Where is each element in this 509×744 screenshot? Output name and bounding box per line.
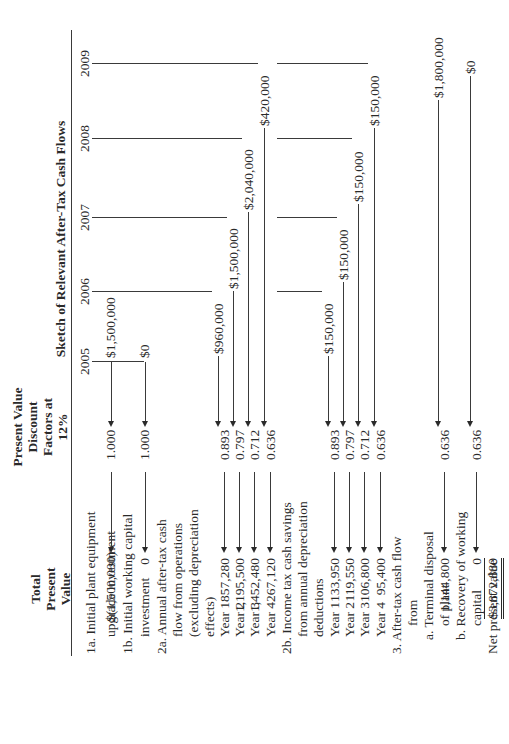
total-pv-value: 1,452,480 — [248, 558, 262, 644]
discount-factor: 0.712 — [248, 430, 262, 460]
header-rule — [71, 364, 72, 656]
row-label: 2a. Annual after-tax cash — [155, 519, 169, 654]
connector-2008-tax — [277, 138, 352, 139]
discount-factor: 0.712 — [358, 430, 372, 460]
arrow-left-icon — [145, 362, 146, 422]
cash-flow-amount: $1,800,000 — [432, 37, 446, 98]
cash-flow-amount: $150,000 — [368, 75, 382, 126]
total-pv-value: 133,950 — [328, 558, 342, 644]
header-line: Present — [43, 554, 58, 624]
cash-flow-amount: $1,500,000 — [104, 295, 118, 360]
arrow-left-icon — [270, 472, 271, 548]
discount-factor: 1.000 — [138, 430, 152, 460]
arrow-left-icon — [248, 212, 249, 422]
arrow-left-icon — [328, 356, 329, 422]
discount-factor: 0.636 — [374, 430, 388, 460]
discount-factor: 1.000 — [104, 430, 118, 460]
arrow-left-icon — [349, 472, 350, 548]
total-pv-value: 857,280 — [218, 558, 232, 644]
arrow-left-icon — [239, 472, 240, 548]
row-label: from annual depreciation — [296, 501, 310, 637]
arrow-left-icon — [476, 472, 477, 548]
total-pv-value: 0 — [138, 558, 152, 644]
cash-flow-amount: $150,000 — [352, 151, 366, 202]
connector-2007 — [92, 217, 227, 218]
arrow-left-icon — [111, 472, 112, 548]
arrow-left-icon — [254, 472, 255, 548]
year-2008: 2008 — [78, 125, 92, 152]
arrow-left-icon — [111, 362, 112, 422]
row-label: a. Terminal disposal — [422, 531, 436, 640]
cash-flow-amount: $960,000 — [212, 303, 226, 354]
connector-2006-tax — [277, 291, 322, 292]
row-label: b. Recovery of working — [454, 512, 468, 640]
year-2007: 2007 — [78, 204, 92, 231]
npv-cash-flow-table: Total Present Value Present Value Discou… — [0, 0, 509, 744]
arrow-left-icon — [470, 76, 471, 422]
arrow-left-icon — [145, 472, 146, 548]
row-label: from — [406, 600, 420, 626]
header-line: 12% — [55, 372, 70, 482]
cash-flow-amount: $2,040,000 — [242, 149, 256, 210]
cash-flow-amount: $1,500,000 — [227, 228, 241, 289]
total-pv-value: 119,550 — [343, 558, 357, 644]
header-line: Factors at — [40, 372, 55, 482]
net-present-value: $3,872,880 — [484, 558, 504, 644]
row-label: 2b. Income tax cash savings — [280, 502, 294, 654]
total-pv-value: 106,800 — [358, 558, 372, 644]
npv-amount: $3,872,880 — [484, 558, 504, 619]
connector-2008 — [92, 138, 242, 139]
connector-2007-tax — [277, 217, 337, 218]
arrow-left-icon — [438, 100, 439, 422]
arrow-left-icon — [358, 204, 359, 422]
row-label: flow from operations — [171, 523, 185, 637]
arrow-left-icon — [380, 472, 381, 548]
sketch-title: Sketch of Relevant After-Tax Cash Flows — [53, 94, 68, 384]
discount-factor: 0.636 — [264, 430, 278, 460]
discount-factor-header: Present Value Discount Factors at 12% — [10, 372, 70, 482]
arrow-left-icon — [233, 291, 234, 422]
header-line: Total — [28, 554, 43, 624]
discount-factor: 0.797 — [233, 430, 247, 460]
arrow-left-icon — [343, 282, 344, 422]
year-2005: 2005 — [78, 348, 92, 375]
total-pv-value: 0 — [470, 558, 484, 644]
arrow-left-icon — [224, 472, 225, 548]
connector-2005 — [92, 361, 144, 362]
row-label: effects) — [203, 597, 217, 637]
row-label: 1a. Initial plant equipment — [84, 512, 98, 654]
discount-factor: 0.636 — [438, 430, 452, 460]
row-label: 1b. Initial working capital — [121, 514, 135, 654]
year-2009: 2009 — [78, 50, 92, 77]
total-pv-value: 95,400 — [374, 558, 388, 644]
connector-2006 — [92, 291, 212, 292]
total-pv-value: 1,144,800 — [438, 558, 452, 644]
cash-flow-amount: $420,000 — [258, 75, 272, 126]
header-line: Discount — [25, 372, 40, 482]
discount-factor: 0.893 — [328, 430, 342, 460]
arrow-left-icon — [334, 472, 335, 548]
discount-factor: 0.893 — [218, 430, 232, 460]
discount-factor: 0.636 — [470, 430, 484, 460]
row-label: deductions — [312, 579, 326, 638]
total-pv-value: 1,195,500 — [233, 558, 247, 644]
year-2006: 2006 — [78, 278, 92, 305]
arrow-left-icon — [444, 472, 445, 548]
row-label: 3. After-tax cash flow — [390, 537, 404, 654]
arrow-left-icon — [374, 128, 375, 422]
arrow-left-icon — [364, 472, 365, 548]
cash-flow-amount: $150,000 — [322, 303, 336, 354]
total-pv-header: Total Present Value — [28, 554, 73, 624]
arrow-left-icon — [264, 128, 265, 422]
arrow-left-icon — [218, 356, 219, 422]
sketch-title-underline — [71, 30, 72, 364]
total-pv-value: $(1,500,000) — [104, 552, 118, 644]
cash-flow-amount: $0 — [464, 61, 478, 75]
header-line: Present Value — [10, 372, 25, 482]
total-pv-value: 267,120 — [264, 558, 278, 644]
discount-factor: 0.797 — [343, 430, 357, 460]
row-label: (excluding depreciation — [187, 509, 201, 637]
cash-flow-amount: $0 — [138, 343, 152, 361]
connector-2009-tax — [277, 63, 368, 64]
connector-2009 — [92, 63, 258, 64]
